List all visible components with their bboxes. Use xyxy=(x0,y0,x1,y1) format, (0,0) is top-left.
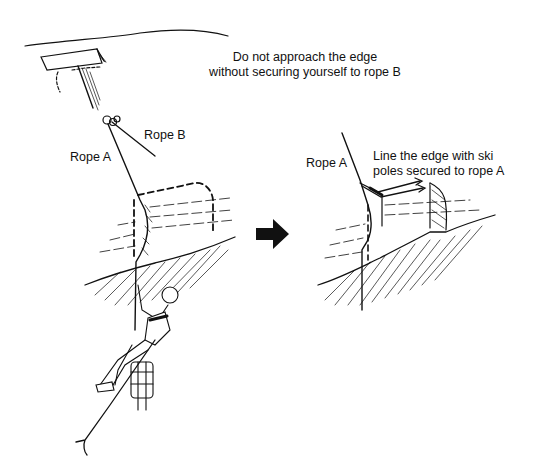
caption-warning-line1: Do not approach the edge xyxy=(165,50,445,65)
caption-ski-poles: Line the edge with ski poles secured to … xyxy=(373,149,504,179)
rope-a-line-left xyxy=(108,124,148,330)
caption-warning-line2: without securing yourself to rope B xyxy=(165,65,445,80)
rope-a-label-right: Rope A xyxy=(306,156,347,171)
caption-ski-poles-line1: Line the edge with ski xyxy=(373,149,504,164)
cornice-outline-dashed xyxy=(138,183,213,232)
ledge-edge-right xyxy=(318,215,495,285)
snow-anchor-icon xyxy=(41,49,106,110)
ski-poles-icon xyxy=(360,178,425,197)
climber-figure xyxy=(96,285,178,410)
rope-b-label: Rope B xyxy=(144,128,186,143)
caption-ski-poles-line2: poles secured to rope A xyxy=(373,164,504,179)
rope-a-label-left: Rope A xyxy=(70,150,111,165)
snow-surface-line xyxy=(25,30,228,46)
ledge-edge-left xyxy=(85,237,235,285)
caption-warning: Do not approach the edge without securin… xyxy=(165,50,445,80)
carabiner-knot-icon xyxy=(103,116,120,126)
right-arrow-icon xyxy=(256,219,289,249)
